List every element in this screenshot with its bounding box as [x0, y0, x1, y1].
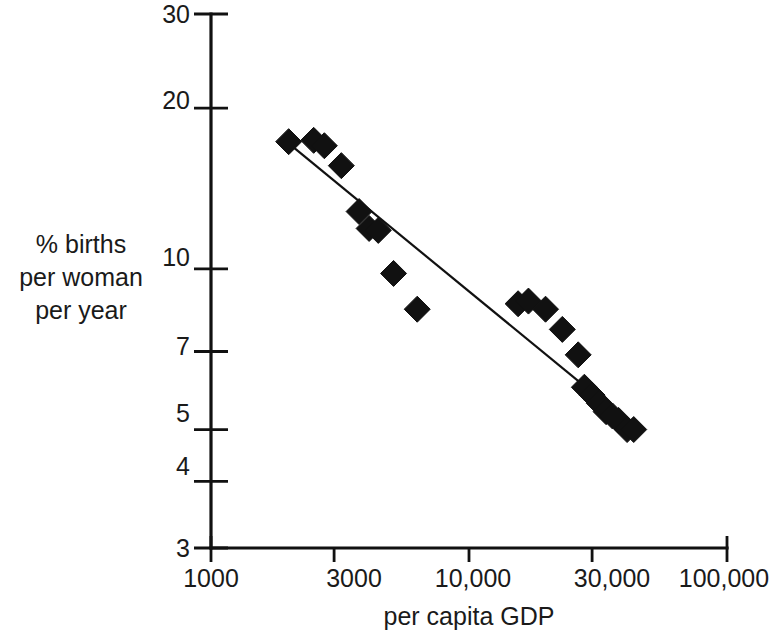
regression-line — [291, 146, 615, 412]
ytick-label-5: 5 — [130, 401, 190, 426]
y-axis-title-line-3: per year — [6, 294, 156, 327]
y-axis-title-line-2: per woman — [6, 261, 156, 294]
xtick-label-1000: 1000 — [183, 566, 239, 591]
ytick-label-20: 20 — [130, 88, 190, 113]
data-point-8 — [404, 296, 430, 322]
xtick-label-10000: 10,000 — [435, 566, 511, 591]
ytick-label-7: 7 — [130, 334, 190, 359]
ytick-label-3: 3 — [130, 536, 190, 561]
data-point-12 — [549, 316, 575, 342]
xtick-label-100000: 100,000 — [679, 566, 769, 591]
ytick-label-4: 4 — [130, 454, 190, 479]
data-point-7 — [381, 260, 407, 286]
trend-line — [291, 146, 615, 412]
y-axis-title: % births per woman per year — [6, 228, 156, 327]
chart-figure: 30 20 10 7 5 4 3 1000 3000 10,000 30,000… — [0, 0, 774, 635]
ytick-label-30: 30 — [130, 2, 190, 27]
xtick-label-3000: 3000 — [326, 566, 382, 591]
axes — [194, 14, 727, 562]
data-point-13 — [565, 342, 591, 368]
y-axis-title-line-1: % births — [6, 228, 156, 261]
x-axis-title: per capita GDP — [211, 602, 727, 631]
xtick-label-30000: 30,000 — [574, 566, 650, 591]
data-point-3 — [328, 153, 354, 179]
